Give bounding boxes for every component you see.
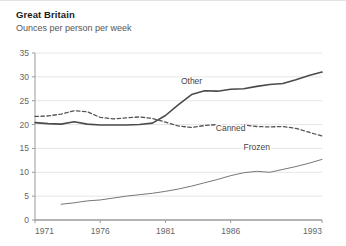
series-label-canned: Canned xyxy=(216,123,246,133)
data-series xyxy=(35,72,322,204)
x-axis-tick-label: 1971 xyxy=(35,226,54,236)
y-axis-tick-label: 10 xyxy=(20,167,30,177)
gridlines xyxy=(35,53,322,220)
y-axis-tick-label: 20 xyxy=(20,120,30,130)
x-axis: 19711976198119861993 xyxy=(35,220,322,236)
y-axis-tick-label: 5 xyxy=(24,191,29,201)
y-axis-tick-label: 25 xyxy=(20,96,30,106)
y-axis-tick-label: 15 xyxy=(20,143,30,153)
series-line-frozen xyxy=(61,159,322,204)
series-line-canned xyxy=(35,111,322,136)
x-axis-tick-label: 1986 xyxy=(221,226,240,236)
line-chart-plot: 05101520253035 19711976198119861993 Othe… xyxy=(0,1,346,246)
y-axis-tick-label: 0 xyxy=(24,215,29,225)
series-line-other xyxy=(35,72,322,125)
x-axis-tick-label: 1981 xyxy=(156,226,175,236)
series-label-frozen: Frozen xyxy=(244,142,271,152)
chart-container: Great Britain Ounces per person per week… xyxy=(0,0,346,246)
series-label-other: Other xyxy=(181,76,202,86)
y-axis: 05101520253035 xyxy=(20,48,35,225)
y-axis-tick-label: 35 xyxy=(20,48,30,58)
y-axis-tick-label: 30 xyxy=(20,72,30,82)
x-axis-tick-label: 1993 xyxy=(303,226,322,236)
x-axis-tick-label: 1976 xyxy=(91,226,110,236)
